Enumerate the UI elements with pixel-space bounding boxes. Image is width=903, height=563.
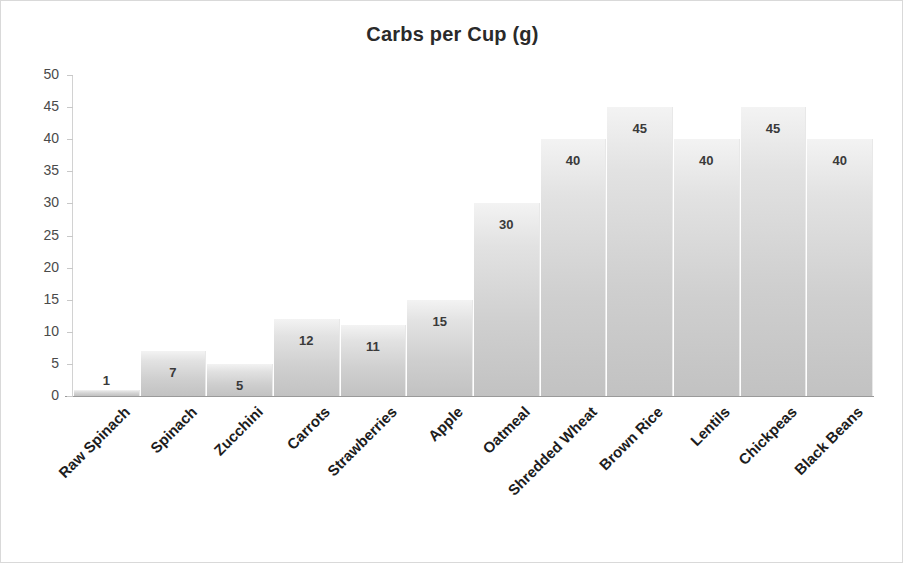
x-axis-category-label: Strawberries bbox=[323, 403, 399, 479]
bar[interactable]: 40 bbox=[540, 139, 607, 396]
bar[interactable]: 1 bbox=[73, 390, 140, 396]
bar[interactable]: 40 bbox=[806, 139, 873, 396]
y-axis-tick-mark bbox=[67, 396, 73, 397]
y-axis-tick-label: 20 bbox=[43, 259, 59, 275]
x-axis-line bbox=[65, 396, 874, 397]
bar-value-label: 45 bbox=[607, 121, 672, 136]
bar-value-label: 11 bbox=[341, 339, 406, 354]
bar[interactable]: 30 bbox=[473, 203, 540, 396]
bar[interactable]: 7 bbox=[140, 351, 207, 396]
bar[interactable]: 45 bbox=[606, 107, 673, 396]
x-axis-category-label: Apple bbox=[425, 403, 466, 444]
x-axis-category-label: Lentils bbox=[687, 403, 733, 449]
bar-value-label: 40 bbox=[541, 153, 606, 168]
bar-value-label: 40 bbox=[674, 153, 739, 168]
bar-value-label: 45 bbox=[741, 121, 806, 136]
y-axis-tick-label: 45 bbox=[43, 98, 59, 114]
bar-value-label: 40 bbox=[807, 153, 872, 168]
y-axis-tick-label: 25 bbox=[43, 227, 59, 243]
x-axis-category-label: Raw Spinach bbox=[55, 403, 133, 481]
bar[interactable]: 11 bbox=[340, 325, 407, 396]
x-axis-category-label: Oatmeal bbox=[479, 403, 533, 457]
bar[interactable]: 12 bbox=[273, 319, 340, 396]
x-axis-category-label: Zucchini bbox=[211, 403, 267, 459]
bar-value-label: 1 bbox=[74, 373, 139, 388]
y-axis-tick-label: 40 bbox=[43, 130, 59, 146]
bar-value-label: 5 bbox=[207, 378, 272, 393]
y-axis-tick-label: 10 bbox=[43, 323, 59, 339]
y-axis-tick-label: 35 bbox=[43, 162, 59, 178]
bar[interactable]: 5 bbox=[206, 364, 273, 396]
y-axis-tick-label: 5 bbox=[51, 355, 59, 371]
y-axis-tick-label: 30 bbox=[43, 194, 59, 210]
x-axis-category-label: Chickpeas bbox=[735, 403, 800, 468]
bar-value-label: 12 bbox=[274, 333, 339, 348]
bar-value-label: 7 bbox=[141, 365, 206, 380]
y-axis-tick-label: 50 bbox=[43, 66, 59, 82]
x-axis-category-label: Brown Rice bbox=[596, 403, 666, 473]
bar[interactable]: 45 bbox=[740, 107, 807, 396]
x-axis-category-label: Black Beans bbox=[791, 403, 866, 478]
bar[interactable]: 15 bbox=[406, 300, 473, 396]
bar-value-label: 15 bbox=[407, 314, 472, 329]
x-axis-category-label: Spinach bbox=[146, 403, 199, 456]
chart-title: Carbs per Cup (g) bbox=[1, 23, 903, 46]
chart-container: Carbs per Cup (g) 50454035302520151050 1… bbox=[0, 0, 903, 563]
x-axis-category-label: Carrots bbox=[283, 403, 333, 453]
y-axis-tick-label: 15 bbox=[43, 291, 59, 307]
bar-value-label: 30 bbox=[474, 217, 539, 232]
plot-area: 175121115304045404540 bbox=[73, 75, 873, 396]
bar[interactable]: 40 bbox=[673, 139, 740, 396]
y-axis-tick-label: 0 bbox=[51, 387, 59, 403]
